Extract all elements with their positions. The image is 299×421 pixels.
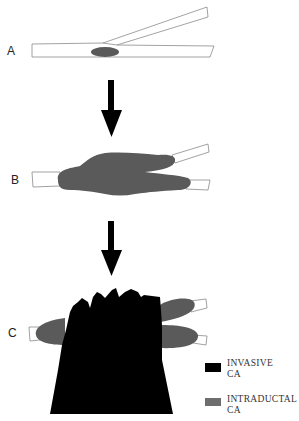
panel-label-c: C [8, 326, 17, 340]
arrow-down-icon-1 [101, 80, 122, 137]
panel-label-a: A [7, 44, 15, 58]
legend-swatch-invasive [205, 363, 221, 372]
panel-label-b: B [11, 173, 19, 187]
panel-c-invasive-mass [50, 288, 173, 414]
legend-label-intraductal-line1: INTRADUCTAL [227, 394, 297, 405]
legend-label-invasive-line1: INVASIVE [227, 358, 273, 369]
panel-a-duct [32, 7, 214, 57]
legend-item-intraductal: INTRADUCTAL CA [227, 394, 297, 416]
panel-a-intraductal-lesion [91, 47, 119, 57]
panel-b-intraductal-mass [58, 153, 191, 196]
legend-swatch-intraductal [205, 398, 221, 406]
diagram-canvas: A B C INVASIVE CA INTRADUCTAL CA [0, 0, 299, 421]
arrow-down-icon-2 [101, 221, 122, 276]
legend-label-invasive-line2: CA [227, 369, 273, 380]
legend-label-intraductal-line2: CA [227, 405, 297, 416]
legend-item-invasive: INVASIVE CA [227, 358, 273, 380]
